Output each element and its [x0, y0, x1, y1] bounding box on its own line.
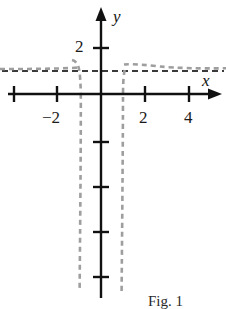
figure-caption: Fig. 1: [148, 294, 183, 309]
curve-left-inner-branch: [80, 94, 81, 291]
curve-left-dip: [72, 60, 81, 94]
y-axis-arrow-icon: [96, 7, 107, 21]
x-axis-arrow-icon: [208, 89, 222, 100]
x-tick-label-minus-2: −2: [42, 109, 60, 126]
curve-right-inner-branch: [122, 67, 126, 291]
y-tick-label-2: 2: [75, 38, 84, 55]
y-axis-label: y: [113, 8, 121, 25]
x-tick-label-2: 2: [139, 109, 148, 126]
x-axis-label: x: [202, 72, 210, 89]
curve-left-outer-branch: [0, 68, 78, 70]
x-tick-label-4: 4: [184, 109, 193, 126]
curve-right-outer-branch: [124, 64, 226, 68]
